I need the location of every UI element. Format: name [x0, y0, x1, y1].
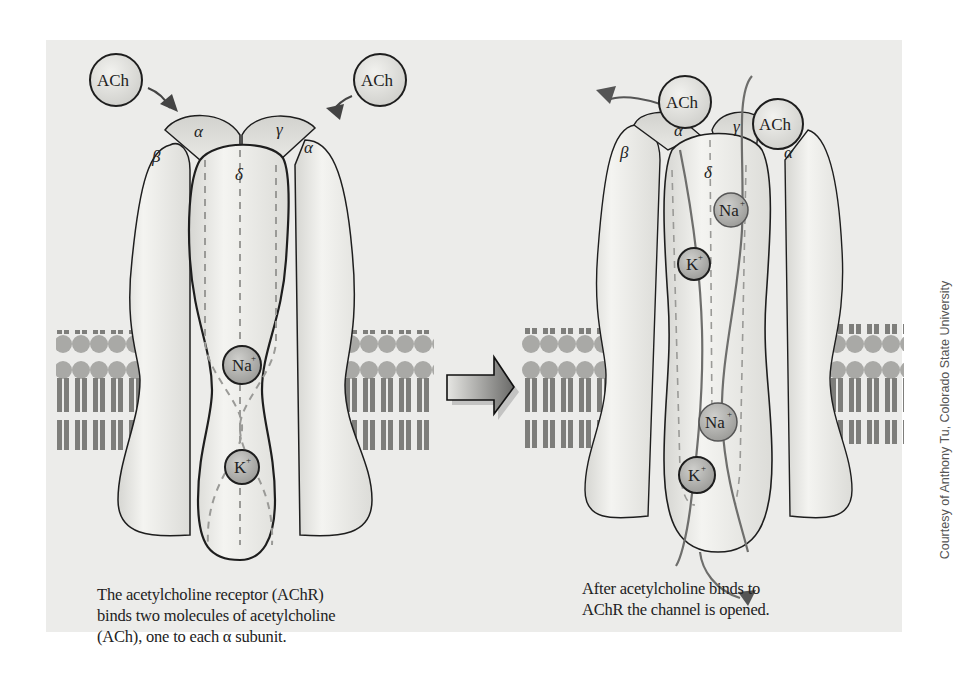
- ion-na-right-2: Na +: [699, 403, 737, 441]
- subunit-delta-left: δ: [235, 165, 244, 184]
- subunit-delta-right: δ: [704, 163, 713, 182]
- caption-line: AChR the channel is opened.: [582, 599, 902, 620]
- svg-text:ACh: ACh: [361, 71, 394, 90]
- ach-ligand-right-1: ACh: [659, 76, 711, 128]
- subunit-alpha-left: α: [194, 122, 204, 141]
- ion-k-right-2: K +: [679, 457, 715, 493]
- svg-text:+: +: [698, 252, 703, 262]
- transition-arrow-icon: [447, 357, 519, 420]
- subunit-alpha2-left: α: [304, 138, 314, 157]
- caption-line: After acetylcholine binds to: [582, 578, 902, 599]
- ion-na-left: Na +: [223, 346, 261, 384]
- svg-text:K: K: [688, 466, 701, 485]
- ion-na-right-1: Na +: [714, 193, 748, 227]
- caption-line: The acetylcholine receptor (AChR): [97, 584, 457, 605]
- svg-text:Na: Na: [705, 413, 725, 432]
- caption-line: binds two molecules of acetylcholine: [97, 605, 457, 626]
- svg-text:+: +: [727, 409, 732, 419]
- caption-line: (ACh), one to each α subunit.: [97, 626, 457, 647]
- caption-closed-state: The acetylcholine receptor (AChR) binds …: [97, 584, 457, 647]
- caption-open-state: After acetylcholine binds to AChR the ch…: [582, 578, 902, 620]
- svg-text:ACh: ACh: [759, 115, 792, 134]
- binding-arrows-left: [148, 88, 352, 120]
- subunit-beta-left: β: [151, 147, 161, 166]
- svg-text:Na: Na: [232, 356, 252, 375]
- ach-ligand-right-2: ACh: [753, 99, 803, 149]
- svg-text:Na: Na: [719, 201, 739, 220]
- svg-text:+: +: [251, 353, 256, 363]
- receptor-closed: [118, 116, 372, 560]
- image-credit: Courtesy of Anthony Tu, Colorado State U…: [938, 281, 952, 560]
- svg-text:+: +: [701, 463, 706, 473]
- ach-ligand-left-1: ACh: [90, 54, 142, 106]
- svg-text:+: +: [246, 455, 251, 465]
- ion-k-left: K +: [225, 450, 259, 484]
- receptor-open: [585, 112, 852, 552]
- ach-ligand-left-2: ACh: [354, 54, 406, 106]
- svg-text:+: +: [740, 198, 745, 208]
- svg-text:ACh: ACh: [666, 93, 699, 112]
- subunit-beta-right: β: [619, 143, 629, 162]
- svg-text:ACh: ACh: [97, 71, 130, 90]
- ion-k-right-1: K +: [678, 248, 710, 280]
